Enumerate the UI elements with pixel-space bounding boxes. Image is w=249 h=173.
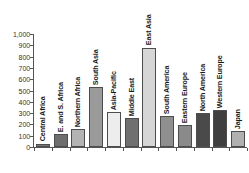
y-axis-tick-label: 600 bbox=[0, 76, 30, 83]
y-axis-tick-label: 800 bbox=[0, 53, 30, 60]
bar-category-label: Eastern Europe bbox=[181, 72, 188, 123]
y-axis-tick-mark bbox=[30, 34, 33, 35]
bar-category-label: North America bbox=[199, 64, 206, 111]
bar[interactable] bbox=[54, 134, 68, 147]
x-axis-tick-mark bbox=[141, 148, 142, 151]
bar-group[interactable]: South Asia bbox=[89, 34, 103, 147]
bar-category-label: East Asia bbox=[146, 15, 153, 46]
y-axis-tick-label: 1,000 bbox=[0, 31, 30, 38]
bar[interactable] bbox=[125, 118, 139, 147]
y-axis-tick-label: 400 bbox=[0, 98, 30, 105]
bar[interactable] bbox=[89, 87, 103, 147]
y-axis-tick-mark bbox=[30, 124, 33, 125]
x-axis-tick-mark bbox=[212, 148, 213, 151]
x-axis-tick-mark bbox=[194, 148, 195, 151]
bar-group[interactable]: Middle East bbox=[125, 34, 139, 147]
y-axis-tick-mark bbox=[30, 57, 33, 58]
bar-category-label: Middle East bbox=[128, 78, 135, 116]
y-axis-tick-mark bbox=[30, 147, 33, 148]
x-axis-tick-mark bbox=[176, 148, 177, 151]
y-axis-tick-label: 700 bbox=[0, 64, 30, 71]
bar-group[interactable]: Northern Africa bbox=[71, 34, 85, 147]
bar-category-label: Asia-Pacific bbox=[110, 71, 117, 110]
bar-category-label: South Asia bbox=[92, 49, 99, 85]
x-axis-tick-mark bbox=[158, 148, 159, 151]
y-axis-tick-mark bbox=[30, 102, 33, 103]
x-axis-tick-mark bbox=[247, 148, 248, 151]
y-axis-tick-label: 900 bbox=[0, 42, 30, 49]
y-axis-tick-mark bbox=[30, 91, 33, 92]
bar-category-label: Japan bbox=[234, 109, 241, 129]
bar[interactable] bbox=[36, 144, 50, 147]
bar-group[interactable]: North America bbox=[196, 34, 210, 147]
bar[interactable] bbox=[231, 131, 245, 147]
x-axis-tick-mark bbox=[52, 148, 53, 151]
bar-group[interactable]: East Asia bbox=[142, 34, 156, 147]
bar[interactable] bbox=[213, 110, 227, 147]
y-axis-tick-label: 200 bbox=[0, 121, 30, 128]
bar[interactable] bbox=[160, 116, 174, 147]
y-axis-tick-labels: 1,0009008007006005004003002001000 bbox=[0, 29, 30, 153]
bar-chart: 1,0009008007006005004003002001000 Centra… bbox=[0, 0, 249, 173]
x-axis-tick-mark bbox=[123, 148, 124, 151]
x-axis-tick-mark bbox=[229, 148, 230, 151]
y-axis-tick-label: 100 bbox=[0, 132, 30, 139]
bar-category-label: Northern Africa bbox=[75, 77, 82, 127]
x-axis-tick-mark bbox=[87, 148, 88, 151]
x-axis-tick-mark bbox=[34, 148, 35, 151]
plot-area: Central AfricaE. and S. AfricaNorthern A… bbox=[34, 34, 247, 147]
bar[interactable] bbox=[107, 112, 121, 147]
bar-group[interactable]: Asia-Pacific bbox=[107, 34, 121, 147]
y-axis-tick-mark bbox=[30, 45, 33, 46]
y-axis-tick-label: 0 bbox=[0, 144, 30, 151]
y-axis-tick-label: 500 bbox=[0, 87, 30, 94]
y-axis-tick-mark bbox=[30, 79, 33, 80]
bar-group[interactable]: Eastern Europe bbox=[178, 34, 192, 147]
bar-category-label: Western Europe bbox=[217, 55, 224, 108]
bar[interactable] bbox=[196, 113, 210, 147]
bar-group[interactable]: Japan bbox=[231, 34, 245, 147]
y-axis-tick-mark bbox=[30, 113, 33, 114]
bar-group[interactable]: E. and S. Africa bbox=[54, 34, 68, 147]
bar-category-label: South America bbox=[163, 65, 170, 114]
bar-group[interactable]: Central Africa bbox=[36, 34, 50, 147]
bar-category-label: Central Africa bbox=[39, 97, 46, 142]
bar-group[interactable]: South America bbox=[160, 34, 174, 147]
y-axis-tick-label: 300 bbox=[0, 110, 30, 117]
bar-group[interactable]: Western Europe bbox=[213, 34, 227, 147]
y-axis-tick-mark bbox=[30, 68, 33, 69]
x-axis-tick-mark bbox=[70, 148, 71, 151]
bar[interactable] bbox=[178, 125, 192, 147]
x-axis-tick-mark bbox=[105, 148, 106, 151]
bar[interactable] bbox=[71, 129, 85, 147]
bar-category-label: E. and S. Africa bbox=[57, 82, 64, 132]
bar[interactable] bbox=[142, 48, 156, 147]
y-axis-tick-mark bbox=[30, 136, 33, 137]
